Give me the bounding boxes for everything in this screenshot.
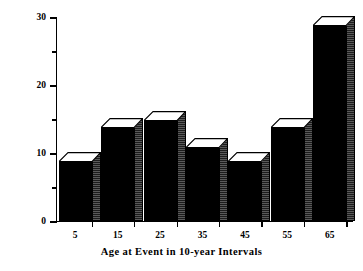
y-axis-line (56, 17, 57, 223)
y-axis-tick-minor (52, 119, 56, 120)
bar-55 (271, 118, 313, 222)
x-axis-tick (346, 221, 347, 227)
x-axis-tick-label: 55 (267, 230, 307, 240)
y-axis-tick-major (50, 153, 56, 154)
y-axis-tick-major (50, 17, 56, 18)
bar-front-face (186, 147, 219, 222)
bar-top-outline (144, 111, 186, 122)
x-axis-tick (92, 221, 93, 227)
bar-side-face (134, 118, 143, 221)
x-axis-title: Age at Event in 10-year Intervals (0, 246, 363, 257)
bar-front-face (271, 127, 304, 222)
y-axis-tick-label: 0 (14, 217, 46, 227)
y-axis-tick-label: 10 (14, 149, 46, 159)
bar-front-face (313, 25, 346, 222)
bar-chart-figure: Percent of Memories 01020305152535455565… (0, 0, 363, 271)
x-axis-tick (134, 221, 135, 227)
y-axis-tick-label: 20 (14, 81, 46, 91)
bar-5 (59, 152, 101, 222)
x-axis-tick-label: 45 (225, 230, 265, 240)
bar-top-outline (271, 118, 313, 129)
bar-top-outline (101, 118, 143, 129)
x-axis-tick (261, 221, 262, 227)
y-axis-tick-minor (52, 187, 56, 188)
x-axis-tick (304, 221, 305, 227)
x-axis-tick-label: 5 (55, 230, 95, 240)
bar-top-outline (186, 138, 228, 149)
bar-25 (144, 111, 186, 222)
bar-35 (186, 138, 228, 222)
bar-front-face (59, 161, 92, 222)
bar-front-face (228, 161, 261, 222)
bar-front-face (144, 120, 177, 222)
bar-top-outline (59, 152, 101, 163)
bar-45 (228, 152, 270, 222)
y-axis-tick-major (50, 221, 56, 222)
bar-top-outline (313, 16, 355, 27)
bar-side-face (177, 111, 186, 221)
x-axis-tick (219, 221, 220, 227)
x-axis-tick (177, 221, 178, 227)
x-axis-tick-label: 65 (310, 230, 350, 240)
bar-15 (101, 118, 143, 222)
bar-side-face (346, 16, 355, 221)
bar-side-face (219, 138, 228, 221)
x-axis-tick-label: 25 (140, 230, 180, 240)
y-axis-tick-minor (52, 51, 56, 52)
bar-top-outline (228, 152, 270, 163)
y-axis-tick-label: 30 (14, 13, 46, 23)
x-axis-tick-label: 35 (183, 230, 223, 240)
bar-side-face (304, 118, 313, 221)
bar-65 (313, 16, 355, 222)
bar-front-face (101, 127, 134, 222)
x-axis-tick-label: 15 (98, 230, 138, 240)
y-axis-tick-major (50, 85, 56, 86)
